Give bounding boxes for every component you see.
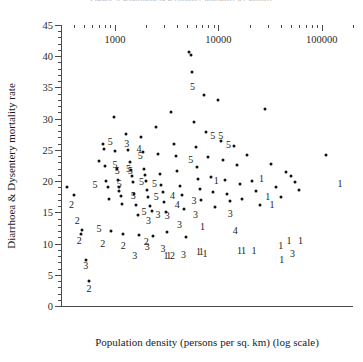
data-point <box>232 145 235 148</box>
point-group-label: 5 <box>188 155 193 165</box>
data-point <box>126 148 129 151</box>
y-tick-mark <box>58 231 61 232</box>
data-point <box>246 153 249 156</box>
data-point <box>109 230 112 233</box>
data-point <box>254 190 257 193</box>
data-point <box>113 116 116 119</box>
data-point <box>225 192 228 195</box>
y-tick-mark <box>58 200 61 201</box>
y-tick-mark <box>58 281 61 282</box>
x-tick-mark <box>268 25 269 28</box>
y-tick-label: 5 <box>48 269 53 280</box>
data-point <box>132 181 135 184</box>
clipped-figure-title: Figure 4. Diarrhoea & Dysentery mortalit… <box>0 0 363 1</box>
y-tick-mark <box>58 162 61 163</box>
point-group-label: 2 <box>87 284 92 294</box>
y-tick-mark <box>58 50 61 51</box>
data-point <box>108 197 111 200</box>
y-tick-mark <box>58 287 61 288</box>
data-point <box>285 171 288 174</box>
y-tick-mark <box>58 219 61 220</box>
y-tick-label: 0 <box>48 301 53 312</box>
data-point <box>209 176 212 179</box>
x-tick-mark <box>281 25 282 28</box>
x-tick-mark <box>146 25 147 28</box>
data-point <box>158 172 161 175</box>
data-point <box>104 164 107 167</box>
point-group-label: 5 <box>93 180 98 190</box>
point-group-label: 5 <box>117 179 122 189</box>
x-tick-mark <box>214 25 215 28</box>
point-group-label: 1 <box>241 246 246 256</box>
data-point <box>140 136 143 139</box>
data-point <box>194 146 197 149</box>
x-tick-mark <box>196 25 197 28</box>
x-tick-mark <box>115 25 116 31</box>
data-point <box>146 188 149 191</box>
point-group-label: 5 <box>152 179 157 189</box>
data-point <box>125 132 128 135</box>
point-group-label: 3 <box>145 242 150 252</box>
point-group-label: 2 <box>170 251 175 261</box>
point-group-label: 5 <box>190 82 195 92</box>
point-group-label: 1 <box>259 174 264 184</box>
x-tick-mark <box>84 25 85 28</box>
y-tick-mark <box>58 94 61 95</box>
x-tick-mark <box>322 25 323 31</box>
point-group-label: 5 <box>218 131 223 141</box>
data-point <box>217 98 220 101</box>
y-tick-mark <box>58 175 61 176</box>
point-group-label: 5 <box>154 192 159 202</box>
y-tick-mark <box>58 225 61 226</box>
data-point <box>98 160 101 163</box>
y-tick-mark <box>58 125 61 126</box>
data-point <box>114 150 117 153</box>
y-tick-mark <box>58 31 61 32</box>
point-group-label: 5 <box>128 166 133 176</box>
data-point <box>189 53 192 56</box>
y-tick-mark <box>55 181 61 182</box>
data-point <box>107 186 110 189</box>
x-tick-mark <box>164 25 165 28</box>
y-tick-mark <box>58 75 61 76</box>
x-tick-mark <box>202 25 203 28</box>
x-axis-title: Population density (persons per sq. km) … <box>61 336 353 348</box>
data-point <box>200 198 203 201</box>
y-tick-mark <box>58 156 61 157</box>
x-tick-label: 10000 <box>205 34 231 45</box>
point-group-label: 5 <box>138 151 143 161</box>
y-tick-mark <box>58 62 61 63</box>
x-tick-mark <box>110 25 111 28</box>
data-point <box>198 187 201 190</box>
y-axis-title-text: Diarrhoea & Dysentery mortality rate <box>5 83 17 249</box>
point-group-label: 3 <box>290 249 295 259</box>
y-tick-mark <box>58 100 61 101</box>
y-tick-mark <box>58 169 61 170</box>
point-group-label: 1 <box>278 241 283 251</box>
point-group-label: 1 <box>338 179 343 189</box>
data-point <box>235 163 238 166</box>
data-point <box>101 142 104 145</box>
data-point <box>122 232 125 235</box>
data-point <box>118 190 121 193</box>
data-point <box>182 207 185 210</box>
y-tick-mark <box>58 262 61 263</box>
y-tick-mark <box>58 187 61 188</box>
data-point <box>160 183 163 186</box>
point-group-label: 3 <box>155 210 160 220</box>
data-point <box>269 162 272 165</box>
data-point <box>241 197 244 200</box>
point-group-label: 1 <box>279 255 284 265</box>
y-tick-label: 25 <box>43 144 54 155</box>
data-point <box>213 206 216 209</box>
y-tick-mark <box>55 119 61 120</box>
data-point <box>229 200 232 203</box>
point-group-label: 1 <box>298 236 303 246</box>
y-tick-mark <box>55 25 61 26</box>
y-tick-mark <box>55 56 61 57</box>
y-tick-label: 45 <box>43 20 54 31</box>
x-tick-mark <box>250 25 251 28</box>
data-point <box>81 228 84 231</box>
y-tick-mark <box>58 106 61 107</box>
y-tick-mark <box>58 294 61 295</box>
